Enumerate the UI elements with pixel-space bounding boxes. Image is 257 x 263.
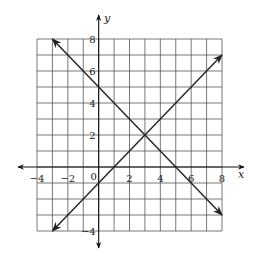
y-tick-label: 2 (89, 130, 95, 141)
y-axis-label: y (103, 12, 111, 25)
x-tick-label: 2 (126, 173, 132, 184)
axes (18, 15, 244, 248)
x-tick-label: 0 (90, 171, 96, 182)
x-tick-label: −2 (60, 173, 75, 184)
grid (37, 39, 222, 231)
y-tick-label: −4 (81, 226, 96, 237)
series-line-increasing (52, 55, 222, 231)
coordinate-plane: x y −4−2024688642−4 (0, 0, 257, 263)
x-axis-label: x (238, 168, 245, 181)
labels: x y −4−2024688642−4 (30, 12, 245, 237)
y-tick-label: 8 (89, 34, 95, 45)
x-tick-label: 4 (157, 173, 163, 184)
x-tick-label: 8 (219, 173, 225, 184)
series-line-decreasing (52, 39, 222, 215)
y-tick-label: 6 (89, 66, 95, 77)
y-tick-label: 4 (89, 98, 95, 109)
x-tick-label: 6 (188, 173, 194, 184)
x-tick-label: −4 (30, 173, 45, 184)
